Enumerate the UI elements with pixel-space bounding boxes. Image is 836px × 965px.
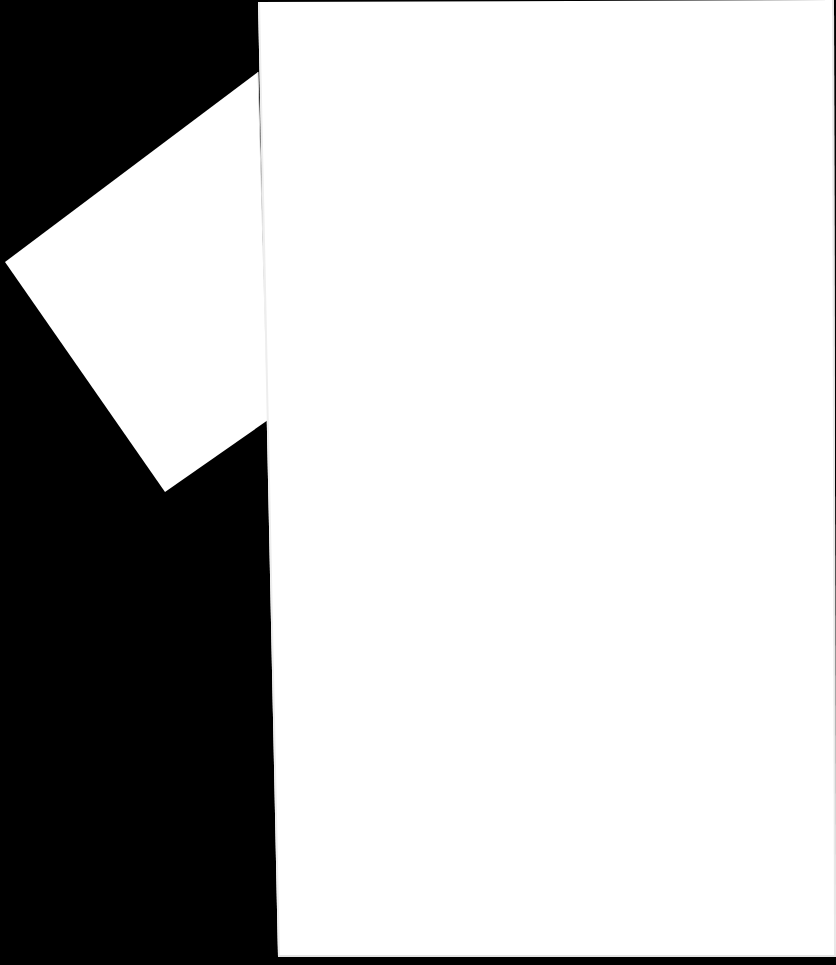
photo-scene: Two blank white paper sheets on a black … [0, 0, 836, 965]
main-paper-sheet [258, 0, 836, 957]
paper-sheets-illustration [0, 0, 836, 965]
